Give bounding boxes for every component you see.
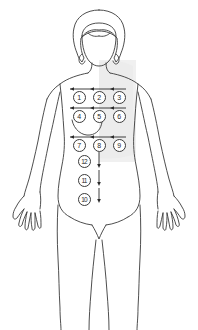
body-outline-svg [0,0,198,330]
groin-line [92,225,106,239]
leg-right-inner [102,240,109,330]
face-outline [82,23,116,66]
arm-right-inner [138,92,158,192]
site-marker-8[interactable]: 8 [93,139,106,152]
arm-left-outer [24,99,47,196]
site-marker-1[interactable]: 1 [73,91,86,104]
arm-left-inner [40,92,60,192]
hand-left-wrist [40,192,41,209]
torso-left [58,84,70,217]
hip-right [106,217,128,225]
hand-right-finger-4 [157,211,163,228]
hand-left-finger-4 [35,211,41,228]
site-marker-9[interactable]: 9 [113,139,126,152]
hand-left-thumb [13,196,24,219]
site-marker-6[interactable]: 6 [113,110,126,123]
site-marker-4[interactable]: 4 [73,110,86,123]
leg-left-outer [57,205,61,330]
leg-right-outer [137,205,141,330]
hand-right-wrist [157,192,158,209]
hand-right-finger-3 [163,213,167,230]
arm-right-outer [151,99,174,196]
site-marker-7[interactable]: 7 [73,139,86,152]
hand-left-finger-3 [31,213,35,230]
site-marker-3[interactable]: 3 [113,91,126,104]
site-marker-5[interactable]: 5 [93,110,106,123]
fringe-detail-right [99,33,110,36]
hip-left [70,217,92,225]
body-diagram-figure: 1 2 3 4 5 6 7 8 9 12 11 10 [0,0,198,330]
neck-left [88,63,92,73]
leg-left-inner [89,240,96,330]
site-marker-2[interactable]: 2 [93,91,106,104]
site-marker-11[interactable]: 11 [78,174,91,187]
fringe-detail-left [88,33,99,36]
hand-right-thumb [174,196,185,219]
site-marker-12[interactable]: 12 [78,155,91,168]
site-marker-10[interactable]: 10 [78,193,91,206]
